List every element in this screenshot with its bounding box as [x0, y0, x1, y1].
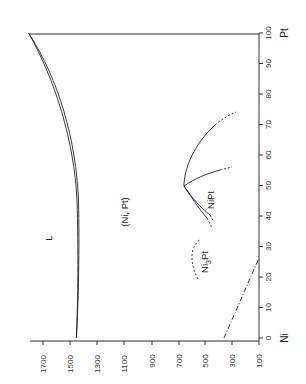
nipt-boundary-left-inner-dashed [210, 215, 214, 222]
tick-label-900: 900 [148, 354, 157, 368]
region-label-nipt: NiPt [205, 191, 216, 209]
nipt-boundary-right-inner-dashed [220, 167, 232, 170]
nipt-boundary-left-outer-dashed [207, 218, 212, 228]
temperature-tick-labels: 1700 1500 1300 1100 900 700 500 300 100 [39, 354, 264, 373]
svg-text:Ni3Pt: Ni3Pt [199, 251, 212, 273]
tick-label-20: 20 [264, 272, 273, 281]
axes [30, 33, 259, 341]
nipt-boundary-right-outer-dashed [215, 112, 236, 125]
composition-ticks [259, 33, 263, 338]
liquidus-curve [29, 33, 78, 338]
tick-label-30: 30 [264, 242, 273, 251]
nipt-boundary-right-outer [184, 125, 215, 186]
tick-label-70: 70 [264, 120, 273, 129]
tick-label-100: 100 [255, 354, 264, 368]
region-label-ni3pt: Ni3Pt [199, 251, 212, 273]
tick-label-1500: 1500 [66, 355, 75, 373]
tick-label-50: 50 [264, 181, 273, 190]
tick-label-500: 500 [201, 354, 210, 368]
nipt-boundary-right-inner [184, 170, 220, 186]
tick-label-10: 10 [264, 303, 273, 312]
tick-label-1100: 1100 [120, 355, 129, 373]
composition-tick-labels: 0 10 20 30 40 50 60 70 80 90 100 [264, 26, 273, 340]
region-label-liquid: L [43, 235, 54, 240]
ni3pt-label-tail: Pt [199, 251, 210, 260]
tick-label-40: 40 [264, 211, 273, 220]
element-label-ni: Ni [279, 333, 290, 342]
tick-label-80: 80 [264, 89, 273, 98]
tick-label-100: 100 [264, 26, 273, 40]
tick-label-700: 700 [175, 354, 184, 368]
curves [29, 33, 259, 338]
ni3pt-label-main: Ni [199, 264, 210, 273]
tick-label-1300: 1300 [93, 355, 102, 373]
tick-label-60: 60 [264, 150, 273, 159]
phase-diagram: 1700 1500 1300 1100 900 700 500 300 100 … [0, 0, 306, 384]
element-label-pt: Pt [279, 28, 290, 38]
solidus-curve [29, 33, 79, 338]
tick-label-1700: 1700 [39, 355, 48, 373]
tick-label-0: 0 [264, 335, 273, 340]
tick-label-90: 90 [264, 59, 273, 68]
tick-label-300: 300 [228, 354, 237, 368]
temperature-ticks [43, 341, 259, 345]
curie-line [224, 258, 259, 338]
region-label-solid-solution: (Ni, Pt) [119, 197, 130, 227]
